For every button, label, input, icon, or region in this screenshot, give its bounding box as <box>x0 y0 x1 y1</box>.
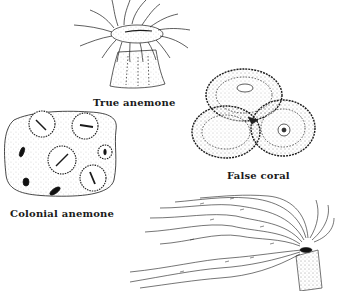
colonial-anemone-drawing <box>4 111 116 196</box>
false-coral-label: False coral <box>227 170 290 181</box>
true-anemone-label: True anemone <box>93 97 176 108</box>
true-anemone-drawing <box>74 0 190 88</box>
tube-anemone-drawing <box>130 195 334 291</box>
colonial-anemone-label: Colonial anemone <box>10 208 114 219</box>
illustration-canvas <box>0 0 337 291</box>
anemone-figure: True anemone False coral Colonial anemon… <box>0 0 337 291</box>
false-coral-drawing <box>192 69 315 158</box>
